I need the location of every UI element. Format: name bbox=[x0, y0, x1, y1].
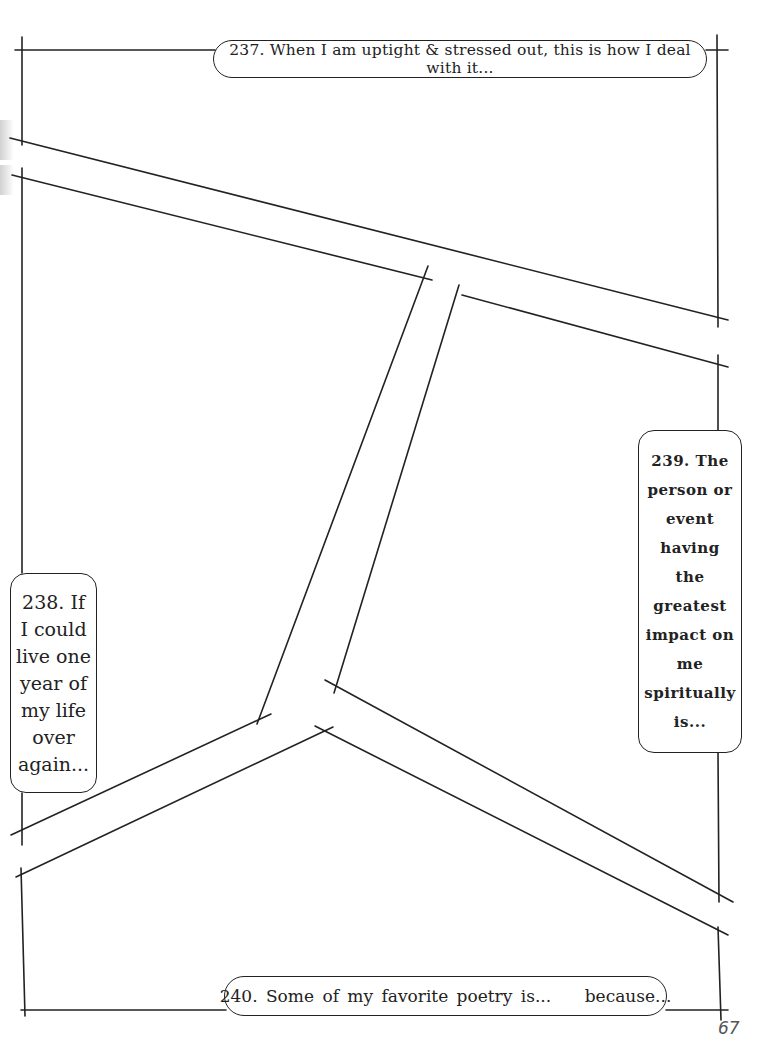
prompt-239-line: me bbox=[677, 650, 703, 679]
prompt-238-line: my life bbox=[21, 697, 86, 724]
prompt-237-box: 237. When I am uptight & stressed out, t… bbox=[213, 40, 707, 78]
bottom-panel-left-border bbox=[21, 868, 25, 1016]
right-panel-left-diagonal bbox=[334, 285, 459, 693]
prompt-240-text: 240. Some of my favorite poetry is... be… bbox=[220, 986, 672, 1006]
journal-page: 237. When I am uptight & stressed out, t… bbox=[0, 0, 768, 1057]
prompt-238-box: 238. If I could live one year of my life… bbox=[10, 573, 97, 793]
bottom-panel-right-border bbox=[718, 927, 721, 1020]
prompt-239-line: spiritually bbox=[644, 679, 735, 708]
prompt-238-line: 238. If bbox=[22, 589, 85, 616]
prompt-240-box: 240. Some of my favorite poetry is... be… bbox=[224, 976, 667, 1016]
prompt-239-line: 239. The bbox=[651, 447, 728, 476]
page-number: 67 bbox=[718, 1018, 740, 1038]
prompt-238-line: live one bbox=[16, 643, 91, 670]
prompt-239-line: greatest bbox=[653, 592, 727, 621]
prompt-238-line: again... bbox=[18, 751, 89, 778]
left-panel-right-diagonal bbox=[257, 266, 428, 724]
prompt-239-line: is... bbox=[674, 708, 706, 737]
prompt-237-text: 237. When I am uptight & stressed out, t… bbox=[214, 41, 706, 77]
prompt-239-box: 239. The person or event having the grea… bbox=[638, 430, 742, 753]
right-panel-top-diagonal bbox=[462, 295, 728, 367]
prompt-238-line: year of bbox=[20, 670, 87, 697]
top-panel-diagonal bbox=[10, 138, 728, 320]
prompt-239-line: event bbox=[666, 505, 714, 534]
bottom-panel-top-diagonal-right bbox=[315, 726, 728, 935]
left-panel-top-diagonal bbox=[12, 175, 432, 280]
right-panel-right-border-lower bbox=[718, 753, 719, 902]
prompt-239-line: impact on bbox=[646, 621, 734, 650]
prompt-239-line: having bbox=[660, 534, 719, 563]
prompt-239-line: person or bbox=[648, 476, 733, 505]
prompt-238-line: I could bbox=[20, 616, 86, 643]
prompt-238-line: over bbox=[32, 724, 75, 751]
top-panel-right-border bbox=[717, 35, 718, 327]
prompt-239-line: the bbox=[676, 563, 705, 592]
